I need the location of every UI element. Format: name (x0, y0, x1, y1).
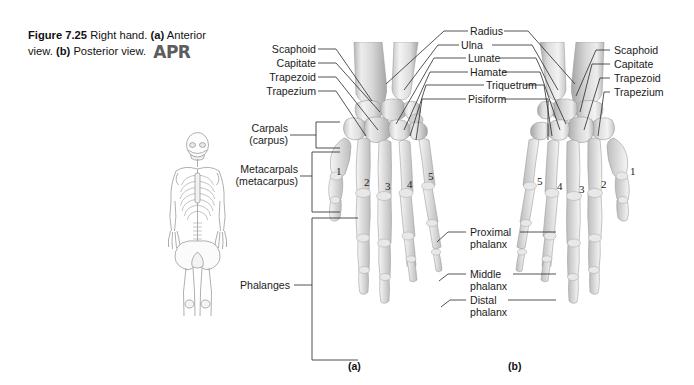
label-scaphoid-posterior: Scaphoid (614, 44, 658, 56)
label-radius: Radius (470, 25, 503, 37)
digit-number-posterior-1: 1 (630, 165, 636, 177)
region-brackets (0, 0, 694, 385)
figure-canvas: Figure 7.25 Right hand. (a) Anterior vie… (0, 0, 694, 385)
label-capitate-anterior: Capitate (238, 57, 316, 69)
label-capitate-posterior: Capitate (614, 58, 653, 70)
label-lunate: Lunate (468, 52, 500, 64)
label-trapezoid-posterior: Trapezoid (614, 72, 661, 84)
label-hamate: Hamate (470, 66, 507, 78)
label-metacarpals-alt: (metacarpus) (198, 175, 298, 187)
digit-number-anterior-3: 3 (385, 180, 391, 192)
digit-number-posterior-5: 5 (537, 175, 543, 187)
label-middle-phalanx-line2: phalanx (470, 280, 507, 292)
panel-label-a: (a) (348, 360, 361, 372)
label-middle-phalanx-line1: Middle (470, 268, 501, 280)
label-distal-phalanx-line2: phalanx (470, 306, 507, 318)
digit-number-anterior-2: 2 (364, 176, 370, 188)
panel-label-b: (b) (508, 360, 521, 372)
digit-number-posterior-2: 2 (601, 178, 607, 190)
label-metacarpals: Metacarpals (198, 163, 298, 175)
label-proximal-phalanx-line1: Proximal (470, 226, 511, 238)
label-carpals-alt: (carpus) (212, 134, 288, 146)
label-phalanges: Phalanges (212, 279, 290, 291)
digit-number-posterior-3: 3 (579, 183, 585, 195)
digit-number-posterior-4: 4 (557, 180, 563, 192)
digit-number-anterior-1: 1 (336, 165, 342, 177)
label-trapezium-anterior: Trapezium (238, 85, 316, 97)
label-trapezoid-anterior: Trapezoid (238, 71, 316, 83)
label-proximal-phalanx-line2: phalanx (470, 238, 507, 250)
digit-number-anterior-4: 4 (407, 178, 413, 190)
label-pisiform: Pisiform (468, 93, 506, 105)
label-distal-phalanx-line1: Distal (470, 294, 497, 306)
label-triquetrum: Triquetrum (486, 79, 537, 91)
label-trapezium-posterior: Trapezium (614, 86, 664, 98)
label-ulna: Ulna (461, 39, 483, 51)
digit-number-anterior-5: 5 (428, 170, 434, 182)
label-scaphoid-anterior: Scaphoid (238, 43, 316, 55)
label-carpals: Carpals (212, 122, 288, 134)
